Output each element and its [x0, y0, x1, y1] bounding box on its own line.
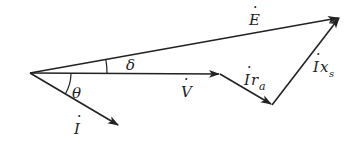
label-theta: θ [72, 84, 81, 102]
label-delta: δ [126, 56, 135, 74]
phasor-ixs-line [272, 18, 339, 105]
label-ira-sub: a [259, 80, 266, 93]
phasor-v-line [30, 73, 219, 74]
delta-angle-arc [106, 59, 107, 74]
phasor-diagram: E · δ θ V · I · I · r a I · x s [0, 0, 356, 144]
phasor-e-line [30, 18, 338, 73]
label-ixs-sub: s [329, 68, 334, 79]
label-v-dot: · [184, 71, 188, 87]
label-ira-r: r [251, 71, 259, 89]
label-i-dot: · [77, 108, 81, 124]
label-ixs-x: x [320, 58, 329, 76]
label-e-dot: · [253, 0, 257, 15]
theta-angle-arc [65, 74, 71, 95]
